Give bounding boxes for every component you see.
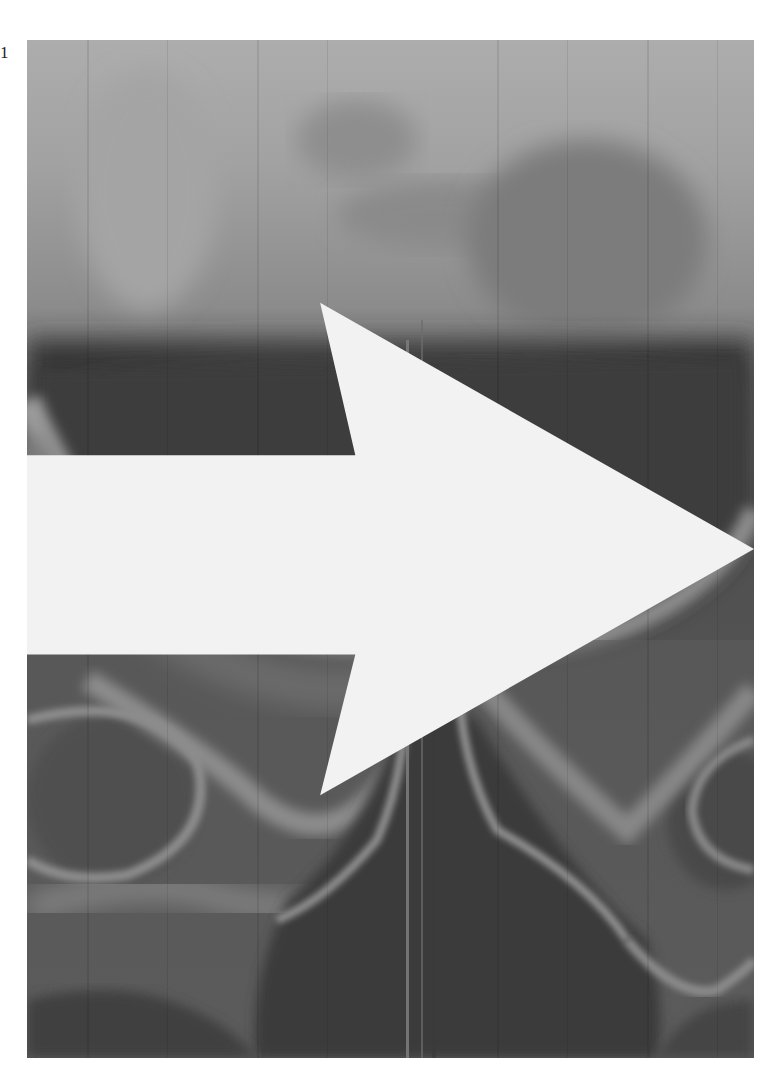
radiograph-image — [27, 40, 754, 1058]
arrow-right-icon — [27, 40, 754, 1058]
figure-label: 1 — [0, 44, 9, 61]
